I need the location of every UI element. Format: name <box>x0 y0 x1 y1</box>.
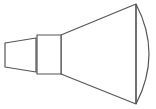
collar <box>37 35 61 74</box>
bell-arc <box>136 4 149 104</box>
horn-diagram <box>0 0 156 109</box>
cone-body <box>61 4 136 104</box>
nozzle <box>5 38 36 72</box>
